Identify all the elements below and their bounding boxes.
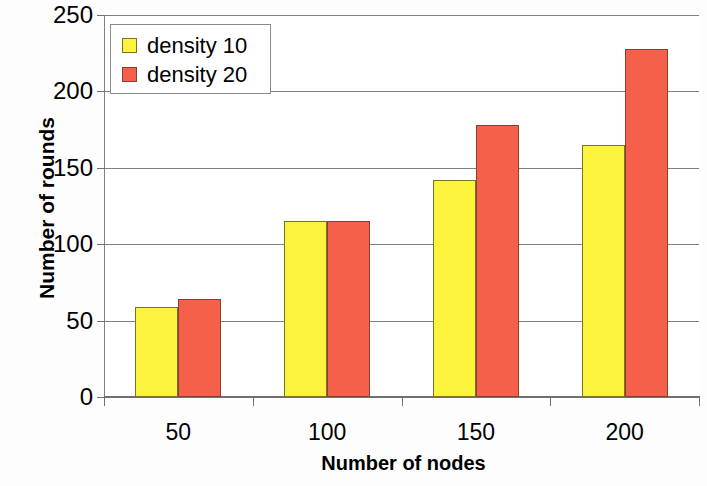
y-tick-label: 200 <box>53 79 93 103</box>
y-axis-line <box>104 15 105 397</box>
x-tick-mark <box>253 396 254 406</box>
x-tick-label: 150 <box>457 419 495 446</box>
bar <box>135 307 178 397</box>
x-tick-label: 100 <box>308 419 346 446</box>
x-tick-mark <box>104 396 105 406</box>
y-tick-label: 0 <box>80 385 93 409</box>
bar <box>178 299 221 397</box>
y-tick-label: 100 <box>53 232 93 256</box>
legend-item-label: density 20 <box>147 64 247 86</box>
y-tick-label: 50 <box>66 309 93 333</box>
x-tick-mark <box>699 396 700 406</box>
legend-swatch-icon <box>122 38 137 53</box>
y-tick-mark <box>97 321 105 322</box>
x-tick-mark <box>402 396 403 406</box>
bar <box>284 221 327 397</box>
gridline <box>104 15 699 16</box>
y-tick-mark <box>97 168 105 169</box>
legend-swatch-icon <box>122 67 137 82</box>
bar-chart: Number of rounds Number of nodes 0501001… <box>0 0 707 486</box>
bar <box>327 221 370 397</box>
legend: density 10 density 20 <box>110 24 271 94</box>
y-tick-label: 250 <box>53 3 93 27</box>
bar <box>625 49 668 397</box>
y-axis-title: Number of rounds <box>35 78 59 338</box>
bar <box>433 180 476 397</box>
y-tick-mark <box>97 91 105 92</box>
y-tick-label: 150 <box>53 156 93 180</box>
legend-item: density 20 <box>122 60 270 89</box>
bar <box>476 125 519 397</box>
x-tick-mark <box>550 396 551 406</box>
legend-item-label: density 10 <box>147 35 247 57</box>
x-tick-label: 50 <box>166 419 192 446</box>
y-tick-mark <box>97 244 105 245</box>
x-tick-label: 200 <box>605 419 643 446</box>
x-axis-title: Number of nodes <box>100 452 707 475</box>
y-tick-mark <box>97 15 105 16</box>
legend-item: density 10 <box>122 31 270 60</box>
bar <box>582 145 625 397</box>
